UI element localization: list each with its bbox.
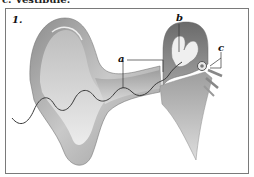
label-a: a	[118, 53, 124, 64]
label-b: b	[176, 12, 183, 23]
nerve-branch-1	[208, 70, 222, 76]
figure-number: 1.	[12, 14, 22, 25]
label-c: c	[218, 42, 224, 53]
lower-body	[160, 72, 212, 160]
ear-illustration	[0, 0, 254, 177]
label-c-bracket	[210, 52, 221, 68]
label-c-line2	[210, 58, 221, 66]
